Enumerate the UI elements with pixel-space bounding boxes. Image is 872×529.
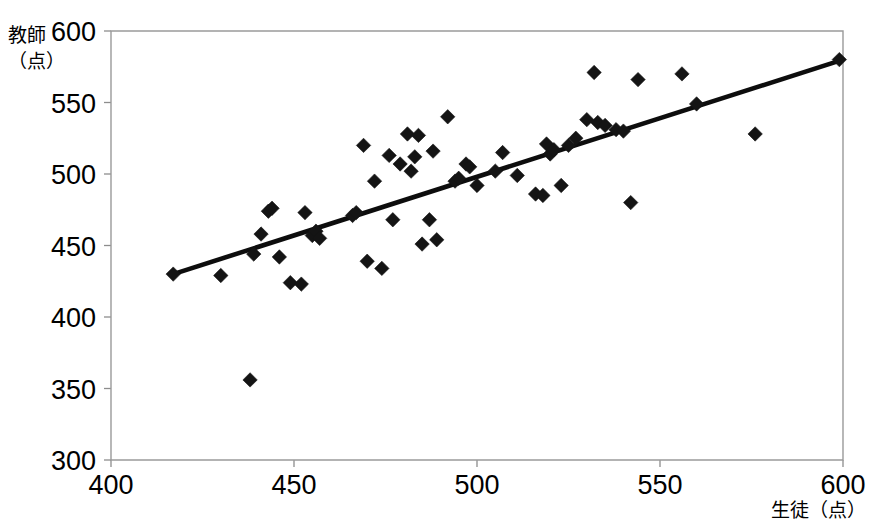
y-tick-label: 300 [51, 446, 96, 476]
y-axis-title-line1: 教師 [8, 25, 46, 46]
y-tick-label: 450 [51, 232, 96, 262]
y-tick-label: 600 [51, 17, 96, 47]
x-tick-label: 500 [454, 470, 499, 500]
y-tick-label: 500 [51, 160, 96, 190]
x-tick-label: 450 [271, 470, 316, 500]
scatter-plot-figure: 400450500550600 300350400450500550600 教師… [0, 0, 872, 529]
chart-canvas: 400450500550600 300350400450500550600 教師… [0, 0, 872, 529]
y-axis-title-line2: （点） [8, 51, 65, 72]
plot-area [104, 31, 847, 467]
x-tick-label: 550 [637, 470, 682, 500]
y-tick-label: 400 [51, 303, 96, 333]
y-tick-label: 350 [51, 375, 96, 405]
y-tick-label: 550 [51, 89, 96, 119]
x-tick-label: 600 [820, 470, 865, 500]
x-axis-title: 生徒（点） [771, 500, 866, 521]
